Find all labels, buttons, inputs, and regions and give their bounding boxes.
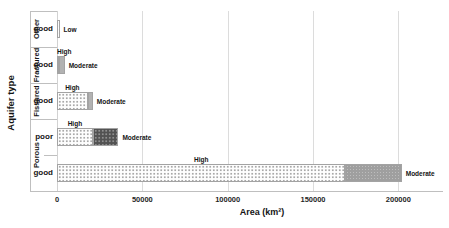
segment-label-low: Low [64,26,77,33]
group-separator [30,83,57,84]
group-label-other: Other [33,19,41,39]
x-tick-label: 100000 [215,195,240,204]
x-tick-label: 150000 [300,195,325,204]
x-axis-line [30,191,443,192]
x-axis-title: Area (km²) [240,207,285,217]
bar-segment-high [57,92,88,110]
bar-segment-high [57,164,345,182]
segment-label-high: High [57,48,71,55]
x-tick-label: 200000 [386,195,411,204]
y-axis-title: Aquifer type [5,75,16,130]
segment-label-moderate: Moderate [97,98,126,105]
x-tick-label: 0 [55,195,59,204]
bar-segment-moderate [59,56,65,74]
segment-label-high: High [65,84,79,91]
bar-segment-low [57,20,60,38]
bar-segment-high [57,128,93,146]
group-label-porous: Porous [33,142,41,168]
segment-label-moderate: Moderate [69,62,98,69]
bar-segment-moderate [345,164,401,182]
bar-chart: Aquifer type Area (km²) 0500001000001500… [0,0,449,228]
segment-label-high: High [68,120,82,127]
segment-label-moderate: Moderate [122,134,151,141]
group-label-fissured: Fissured [33,85,41,116]
bar-segment-moderate [93,128,119,146]
group-separator [30,11,57,12]
x-tick-label: 50000 [132,195,153,204]
segment-label-high: High [194,156,208,163]
bar-segment-moderate [88,92,93,110]
subrow-separator [44,155,57,156]
group-separator [30,119,57,120]
category-label-good-4: good [28,168,53,178]
group-label-fractured: Fractured [33,48,41,83]
segment-label-moderate: Moderate [406,170,435,177]
category-label-poor-3: poor [28,132,53,142]
